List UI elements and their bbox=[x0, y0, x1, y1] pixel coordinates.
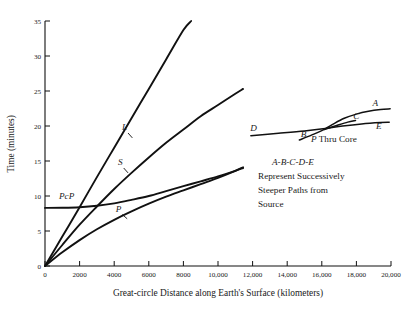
inset-caption-line-3: Source bbox=[258, 199, 284, 209]
y-tick-label: 30 bbox=[34, 53, 42, 61]
x-tick-label: 6000 bbox=[142, 271, 157, 279]
x-tick-group: 0200040006000800010,00012,00014,00016,00… bbox=[43, 261, 401, 279]
y-axis-title: Time (minutes) bbox=[6, 115, 17, 173]
x-tick-label: 14,000 bbox=[277, 271, 297, 279]
curve-label-p: P bbox=[115, 204, 122, 214]
x-axis: 0200040006000800010,00012,00014,00016,00… bbox=[43, 261, 401, 299]
seismic-travel-time-figure: 05101520253035 Time (minutes) 0200040006… bbox=[0, 0, 418, 316]
curve-label-leader bbox=[124, 168, 128, 173]
curve-pcp bbox=[45, 168, 243, 208]
y-tick-label: 15 bbox=[34, 158, 42, 166]
x-tick-label: 10,000 bbox=[208, 271, 228, 279]
inset-label-a: A bbox=[372, 98, 379, 108]
y-tick-label: 35 bbox=[34, 18, 42, 26]
y-tick-label: 0 bbox=[37, 263, 41, 271]
x-tick-label: 18,000 bbox=[347, 271, 367, 279]
main-curve-group bbox=[45, 21, 243, 266]
inset-label-d: D bbox=[249, 123, 257, 133]
curve-label-pcp: PcP bbox=[58, 191, 75, 201]
inset-caption-title-rest: Thru Core bbox=[317, 134, 357, 144]
curve-label-l: L bbox=[121, 122, 127, 132]
inset-caption: P Thru Core A-B-C-D-E Represent Successi… bbox=[258, 134, 357, 209]
inset-caption-line-1: Represent Successively bbox=[258, 171, 345, 181]
y-tick-label: 25 bbox=[34, 88, 42, 96]
y-axis: 05101520253035 Time (minutes) bbox=[6, 18, 50, 271]
curve-label-s: S bbox=[118, 157, 123, 167]
inset-label-c: C bbox=[353, 111, 360, 121]
inset-label-e: E bbox=[375, 121, 382, 131]
inset-caption-line-0: A-B-C-D-E bbox=[271, 157, 314, 167]
chart-svg: 05101520253035 Time (minutes) 0200040006… bbox=[0, 0, 418, 316]
curve-label-leader bbox=[128, 133, 132, 138]
x-tick-label: 16,000 bbox=[312, 271, 332, 279]
x-tick-label: 8000 bbox=[176, 271, 191, 279]
inset-caption-title: P Thru Core bbox=[310, 134, 357, 144]
x-tick-label: 0 bbox=[43, 271, 47, 279]
curve-l bbox=[45, 21, 191, 266]
x-tick-label: 12,000 bbox=[243, 271, 263, 279]
inset-label-b: B bbox=[301, 129, 307, 139]
x-tick-label: 2000 bbox=[73, 271, 88, 279]
x-tick-label: 20,000 bbox=[381, 271, 401, 279]
inset-caption-line-2: Steeper Paths from bbox=[258, 185, 328, 195]
x-axis-title: Great-circle Distance along Earth's Surf… bbox=[113, 288, 323, 299]
x-tick-label: 4000 bbox=[107, 271, 122, 279]
y-tick-label: 5 bbox=[37, 228, 41, 236]
y-tick-label: 20 bbox=[34, 123, 42, 131]
y-tick-label: 10 bbox=[34, 193, 42, 201]
y-tick-group: 05101520253035 bbox=[34, 18, 50, 271]
